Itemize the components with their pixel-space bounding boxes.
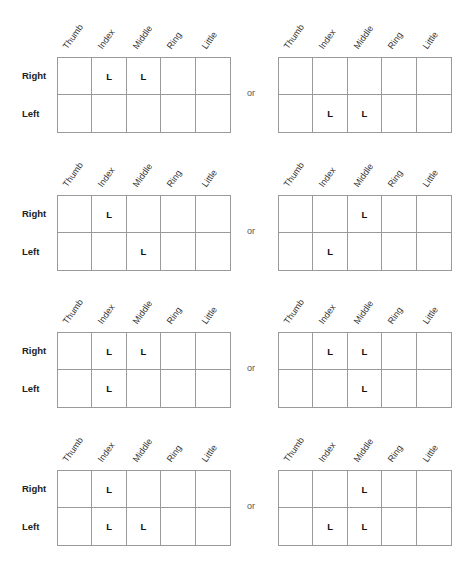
cell-right-middle <box>348 58 382 95</box>
cell-left-little <box>417 233 451 270</box>
row-label-left: Left <box>22 108 39 119</box>
cell-right-little <box>196 471 230 508</box>
cell-right-little <box>417 58 451 95</box>
column-header-ring: Ring <box>165 30 184 51</box>
cell-right-ring <box>382 471 416 508</box>
cell-left-ring <box>382 508 416 545</box>
row-label-left: Left <box>22 246 39 257</box>
cell-right-middle <box>127 196 161 233</box>
column-header-middle: Middle <box>351 299 374 326</box>
cell-left-ring <box>161 370 195 407</box>
cell-left-ring <box>161 508 195 545</box>
cell-right-little <box>417 471 451 508</box>
finger-grid: LL <box>58 58 230 132</box>
cell-right-index <box>313 471 347 508</box>
cell-left-little <box>196 370 230 407</box>
cell-right-middle <box>127 471 161 508</box>
cell-right-thumb <box>279 471 313 508</box>
chart-block-3: RightLeftorThumbIndexMiddleRingLittleLLL… <box>0 275 473 413</box>
row-label-right: Right <box>22 208 46 219</box>
cell-left-little <box>196 508 230 545</box>
row-label-left: Left <box>22 521 39 532</box>
cell-left-ring <box>382 233 416 270</box>
cell-right-thumb <box>279 58 313 95</box>
cell-right-index: L <box>92 58 126 95</box>
cell-left-thumb <box>58 95 92 132</box>
column-header-middle: Middle <box>130 299 153 326</box>
or-separator: or <box>247 501 255 511</box>
column-header-thumb: Thumb <box>282 297 306 326</box>
column-header-ring: Ring <box>165 443 184 464</box>
column-header-little: Little <box>421 30 440 51</box>
column-header-little: Little <box>421 168 440 189</box>
cell-left-index <box>92 233 126 270</box>
finger-grid: LL <box>58 196 230 270</box>
cell-left-index: L <box>92 370 126 407</box>
column-header-index: Index <box>317 440 338 464</box>
column-header-thumb: Thumb <box>61 22 85 51</box>
or-separator: or <box>247 363 255 373</box>
column-header-middle: Middle <box>351 437 374 464</box>
finger-table-right: LLL <box>278 470 452 546</box>
or-separator: or <box>247 88 255 98</box>
cell-left-index <box>313 370 347 407</box>
finger-grid: LLL <box>279 333 451 407</box>
cell-left-thumb <box>58 233 92 270</box>
cell-right-ring <box>161 58 195 95</box>
cell-left-middle: L <box>127 508 161 545</box>
cell-left-little <box>196 95 230 132</box>
cell-right-ring <box>161 333 195 370</box>
or-separator: or <box>247 226 255 236</box>
finger-table-right: LL <box>278 57 452 133</box>
row-label-right: Right <box>22 483 46 494</box>
finger-table-left: LLL <box>57 470 231 546</box>
cell-right-thumb <box>58 471 92 508</box>
column-header-ring: Ring <box>165 168 184 189</box>
cell-left-index: L <box>313 233 347 270</box>
cell-left-middle: L <box>348 95 382 132</box>
cell-right-thumb <box>279 333 313 370</box>
cell-right-index <box>313 196 347 233</box>
cell-left-ring <box>161 233 195 270</box>
column-header-ring: Ring <box>386 168 405 189</box>
row-label-right: Right <box>22 345 46 356</box>
column-header-thumb: Thumb <box>61 435 85 464</box>
column-header-index: Index <box>317 27 338 51</box>
finger-grid: LL <box>279 58 451 132</box>
cell-right-index: L <box>313 333 347 370</box>
cell-right-index: L <box>92 333 126 370</box>
cell-right-little <box>196 333 230 370</box>
cell-right-little <box>196 58 230 95</box>
finger-table-left: LL <box>57 195 231 271</box>
cell-right-little <box>196 196 230 233</box>
cell-right-ring <box>161 196 195 233</box>
cell-left-middle: L <box>127 233 161 270</box>
cell-right-ring <box>382 58 416 95</box>
chart-block-1: RightLeftorThumbIndexMiddleRingLittleLLT… <box>0 0 473 138</box>
cell-right-thumb <box>58 196 92 233</box>
column-header-thumb: Thumb <box>61 160 85 189</box>
cell-left-ring <box>382 370 416 407</box>
column-header-index: Index <box>96 27 117 51</box>
cell-right-middle: L <box>348 471 382 508</box>
cell-left-middle: L <box>348 508 382 545</box>
chart-block-2: RightLeftorThumbIndexMiddleRingLittleLLT… <box>0 138 473 276</box>
column-headers: ThumbIndexMiddleRingLittle <box>57 0 231 57</box>
cell-right-middle: L <box>348 333 382 370</box>
column-header-thumb: Thumb <box>61 297 85 326</box>
column-header-thumb: Thumb <box>282 22 306 51</box>
finger-table-right: LLL <box>278 332 452 408</box>
column-header-index: Index <box>96 440 117 464</box>
column-headers: ThumbIndexMiddleRingLittle <box>278 0 452 57</box>
column-header-index: Index <box>96 302 117 326</box>
column-headers: ThumbIndexMiddleRingLittle <box>57 413 231 470</box>
column-header-little: Little <box>200 168 219 189</box>
cell-left-little <box>417 508 451 545</box>
column-headers: ThumbIndexMiddleRingLittle <box>278 138 452 195</box>
cell-left-little <box>417 370 451 407</box>
cell-right-little <box>417 333 451 370</box>
column-header-middle: Middle <box>130 437 153 464</box>
finger-grid: LL <box>279 196 451 270</box>
column-headers: ThumbIndexMiddleRingLittle <box>278 413 452 470</box>
cell-left-thumb <box>279 370 313 407</box>
